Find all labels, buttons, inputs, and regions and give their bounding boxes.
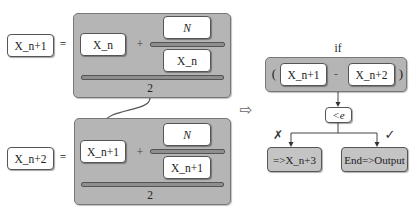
implies-arrow-icon: ⇨ [237,101,255,119]
numerator-n: N [163,16,211,39]
lhs-x-n-plus-2: X_n+2 [7,147,54,170]
if-label: if [327,42,349,54]
divisor-2: 2 [140,82,160,94]
term-x-n: X_n [80,33,126,56]
equals-sign: = [56,151,70,163]
fraction-bar [150,149,225,154]
lhs-label: X_n+2 [14,153,46,165]
denominator-label: X_n+1 [171,162,203,174]
minus-sign: - [330,67,342,79]
denominator-x-n-plus-1: X_n+1 [163,156,211,179]
true-result-label: End=>Output [344,154,405,166]
true-result-box: End=>Output [341,147,408,172]
fraction-bar [150,42,225,47]
numerator-label: N [183,129,191,141]
cross-icon: ✗ [271,128,285,142]
open-paren: ( [269,66,279,82]
lhs-x-n-plus-1: X_n+1 [7,34,54,57]
term-label: X_n+1 [87,146,119,158]
denominator-label: X_n [177,55,197,67]
term-x-n-plus-1: X_n+1 [80,140,126,163]
false-result-box: =>X_n+3 [267,147,322,172]
condition-right-x-n-plus-2: X_n+2 [348,63,395,86]
numerator-n: N [163,123,211,146]
plus-sign: + [134,146,146,158]
condition-left-label: X_n+1 [287,69,319,81]
close-paren: ) [396,66,406,82]
condition-right-label: X_n+2 [355,69,387,81]
check-icon: ✓ [383,127,397,142]
division-bar [81,75,224,80]
less-than-epsilon: <e [325,107,352,123]
denominator-x-n: X_n [163,49,211,72]
divisor-2: 2 [140,189,160,201]
equals-sign: = [56,38,70,50]
plus-sign: + [134,38,146,50]
compare-label: <e [332,109,344,121]
term-label: X_n [93,39,113,51]
false-result-label: =>X_n+3 [273,154,316,166]
lhs-label: X_n+1 [14,40,46,52]
condition-left-x-n-plus-1: X_n+1 [280,63,327,86]
division-bar [81,182,224,187]
numerator-label: N [183,22,191,34]
